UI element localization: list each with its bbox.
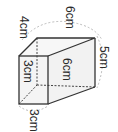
label-front-face-height: 3cm: [21, 60, 35, 83]
label-top-back-edge: 6cm: [63, 6, 77, 29]
label-front-bottom-width: 3cm: [27, 109, 41, 132]
box-diagram: 4cm 6cm 5cm 3cm 6cm 3cm: [0, 0, 118, 132]
label-side-face-length: 6cm: [60, 58, 74, 81]
top-dimension-arc: [22, 21, 102, 40]
label-right-back-edge: 5cm: [97, 46, 111, 69]
label-top-left-edge: 4cm: [17, 16, 31, 39]
